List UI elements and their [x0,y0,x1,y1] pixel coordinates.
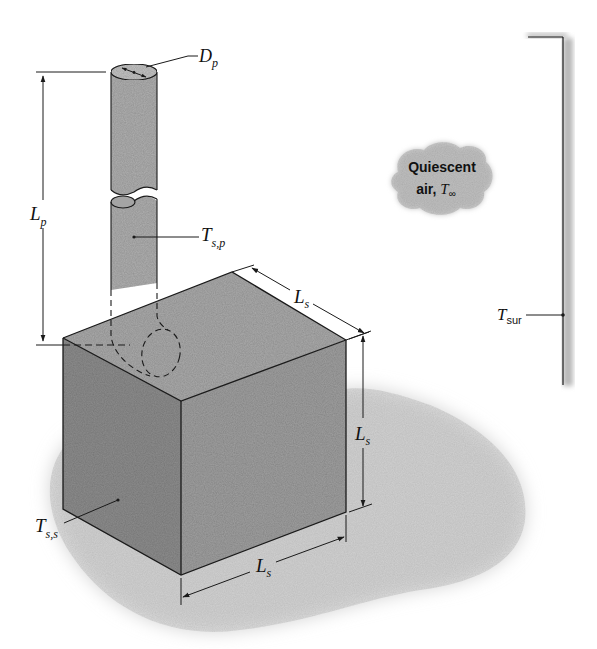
l-p-label: Lp [29,203,47,229]
l-s-top-label: Ls [293,286,310,311]
ambient-air-cloud [391,142,492,215]
d-p-leader [146,56,198,67]
t-sur-label: Tsur [497,305,522,326]
schematic-svg: Tsur Quiescent air, T∞ [0,0,597,649]
d-p-label: Dp [198,46,218,70]
t-sp-label: Ts,p [201,224,225,250]
ambient-line1: Quiescent [408,159,476,175]
figure-canvas: Tsur Quiescent air, T∞ [0,0,597,649]
pipe-lower-segment [111,196,199,290]
surroundings-wall [526,33,573,386]
pipe-upper-segment [111,64,157,195]
